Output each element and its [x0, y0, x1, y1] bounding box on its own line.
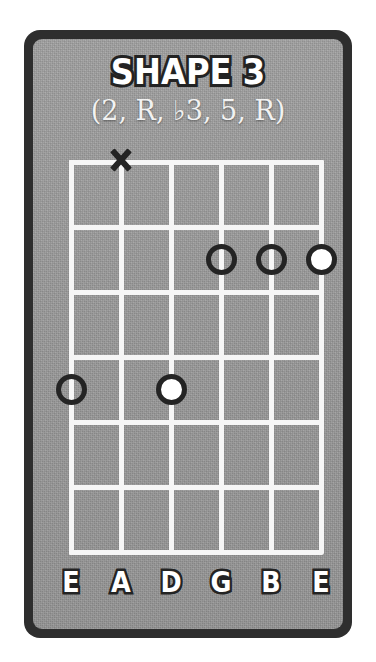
fretboard-grid	[71, 162, 321, 552]
fret-line-5	[69, 485, 323, 490]
chord-card-frame: SHAPE 3 (2, R, ♭3, 5, R) EADGBE	[24, 30, 352, 638]
string-label-3: D	[153, 567, 188, 597]
string-label-6: E	[303, 567, 338, 597]
fret-line-1	[69, 225, 323, 230]
page-title: SHAPE 3	[45, 55, 330, 90]
string-label-5: B	[253, 567, 288, 597]
string-label-1: E	[53, 567, 88, 597]
fret-line-2	[69, 290, 323, 295]
mute-x-icon-string-2	[106, 145, 136, 175]
root-note-dot-string-6-fret-2	[306, 244, 337, 275]
fret-line-3	[69, 355, 323, 360]
string-label-4: G	[203, 567, 238, 597]
note-dot-string-1-fret-4	[56, 374, 87, 405]
scale-degrees-subtitle: (2, R, ♭3, 5, R)	[33, 97, 343, 124]
note-dot-string-5-fret-2	[256, 244, 287, 275]
note-dot-string-4-fret-2	[206, 244, 237, 275]
chord-card-body: SHAPE 3 (2, R, ♭3, 5, R) EADGBE	[33, 39, 343, 629]
fret-line-6	[69, 550, 323, 555]
fret-line-4	[69, 420, 323, 425]
diagram-canvas: SHAPE 3 (2, R, ♭3, 5, R) EADGBE	[0, 0, 376, 662]
root-note-dot-string-3-fret-4	[156, 374, 187, 405]
string-label-row: EADGBE	[71, 567, 321, 611]
string-label-2: A	[103, 567, 138, 597]
